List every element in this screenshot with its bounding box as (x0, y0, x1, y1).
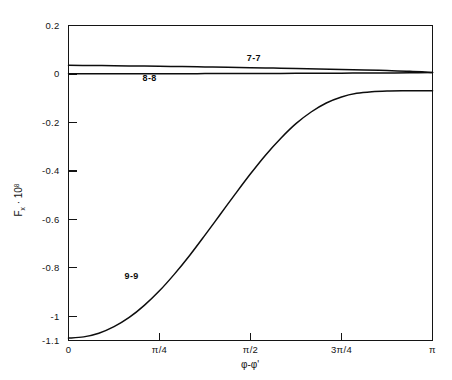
y-tick-label: 0 (54, 68, 60, 79)
series-labels-group: 7-78-89-9 (125, 53, 261, 281)
series-label-7-7: 7-7 (247, 53, 261, 63)
x-tick-label: π (429, 344, 436, 355)
y-axis-title: Fx · 108 (13, 183, 26, 216)
x-axis-tick-labels: 0π/4π/23π/4π (66, 344, 436, 355)
series-label-9-9: 9-9 (125, 271, 139, 281)
y-axis-tick-labels: 0.20-0.2-0.4-0.6-0.8-1-1.1 (42, 20, 60, 346)
x-axis-title: φ-φ' (241, 359, 259, 370)
y-axis-title-exponent: 8 (13, 183, 20, 187)
y-tick-label: -0.2 (42, 117, 60, 128)
y-axis-ticks (69, 74, 77, 316)
y-axis-title-mid: · 10 (13, 187, 24, 207)
series-label-8-8: 8-8 (142, 73, 156, 83)
y-tick-label: 0.2 (45, 20, 59, 31)
y-tick-label: -1.1 (42, 335, 60, 346)
data-curve-7-7 (69, 65, 433, 72)
data-curve-9-9 (69, 91, 433, 338)
y-tick-label: -1 (50, 311, 59, 322)
x-tick-label: π/4 (152, 344, 167, 355)
x-tick-label: 0 (66, 344, 72, 355)
data-series-group (69, 65, 433, 338)
figure-container: 0.20-0.2-0.4-0.6-0.8-1-1.1 0π/4π/23π/4π … (0, 0, 452, 380)
y-tick-label: -0.8 (42, 262, 60, 273)
y-tick-label: -0.4 (42, 165, 60, 176)
y-tick-label: -0.6 (42, 214, 60, 225)
line-chart: 0.20-0.2-0.4-0.6-0.8-1-1.1 0π/4π/23π/4π … (0, 0, 452, 380)
x-axis-ticks (160, 333, 342, 341)
x-tick-label: 3π/4 (331, 344, 352, 355)
data-curve-8-8 (69, 73, 433, 74)
x-tick-label: π/2 (243, 344, 258, 355)
y-axis-title-text: Fx · 108 (13, 183, 26, 216)
